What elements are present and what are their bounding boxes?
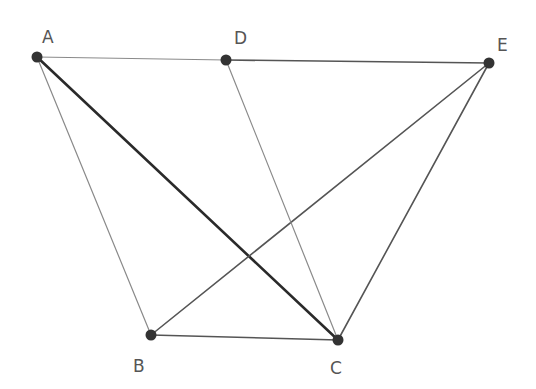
point-D: [221, 55, 232, 66]
point-C: [333, 335, 344, 346]
segments-layer: [37, 57, 489, 340]
point-A: [32, 52, 43, 63]
labels-layer: A B C D E: [42, 27, 508, 378]
label-E: E: [497, 35, 508, 55]
points-layer: [32, 52, 495, 346]
label-B: B: [133, 356, 145, 376]
label-C: C: [330, 358, 342, 378]
segment-AD: [37, 57, 226, 60]
segment-DE: [226, 60, 489, 63]
point-B: [146, 330, 157, 341]
segment-AC: [37, 57, 338, 340]
point-E: [484, 58, 495, 69]
segment-EC: [338, 63, 489, 340]
segment-AB: [37, 57, 151, 335]
segment-DC: [226, 60, 338, 340]
geometry-diagram: A B C D E: [0, 0, 536, 389]
label-A: A: [42, 27, 54, 47]
label-D: D: [234, 28, 247, 48]
segment-BC: [151, 335, 338, 340]
